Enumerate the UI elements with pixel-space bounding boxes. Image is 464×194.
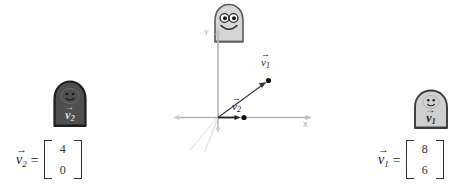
bracket-right-icon bbox=[436, 140, 444, 179]
vector-arrow-icon: → bbox=[232, 94, 241, 103]
bracket-left-icon bbox=[406, 140, 414, 179]
vector-arrow-icon: → bbox=[16, 144, 26, 155]
matrix-cell: 8 bbox=[422, 143, 428, 155]
y-axis-bottom-arrow-icon bbox=[216, 128, 221, 134]
x-axis-right-arrow-icon bbox=[306, 115, 313, 120]
figure-canvas: →v2 →v2 = 4 0 bbox=[0, 0, 464, 194]
eye-left-icon bbox=[66, 93, 69, 96]
y-axis-arrow-icon bbox=[215, 28, 221, 35]
vector-v2-arrowhead-icon bbox=[235, 115, 241, 120]
vector-arrow-icon: → bbox=[261, 50, 270, 59]
vector-arrow-icon: → bbox=[378, 144, 388, 155]
vector-v1-tip-dot bbox=[266, 78, 271, 83]
equation-v2-lhs: →v2 bbox=[16, 150, 27, 169]
eye-right-icon bbox=[433, 99, 435, 101]
equation-v2: →v2 = 4 0 bbox=[16, 140, 82, 179]
plot-label-v1: →v1 bbox=[261, 57, 270, 70]
eye-left-icon bbox=[427, 99, 429, 101]
bracket-left-icon bbox=[44, 140, 52, 179]
equation-v1-matrix: 8 6 bbox=[406, 140, 444, 179]
character-v1-body bbox=[410, 88, 452, 130]
x-axis-label: X bbox=[303, 121, 308, 128]
vector-v2-tip-dot bbox=[241, 115, 246, 120]
character-v2-body bbox=[48, 79, 92, 128]
matrix-cell: 6 bbox=[422, 164, 428, 176]
matrix-cell: 4 bbox=[60, 143, 66, 155]
equation-v1: →v1 = 8 6 bbox=[378, 140, 444, 179]
x-axis-left-arrow-icon bbox=[173, 115, 180, 120]
plot-label-v2: →v2 bbox=[232, 101, 241, 114]
y-axis-label: Y bbox=[204, 29, 209, 36]
matrix-cell: 0 bbox=[60, 164, 66, 176]
equation-v1-lhs: →v1 bbox=[378, 150, 389, 169]
equation-v2-equals: = bbox=[31, 151, 39, 169]
equation-v1-equals: = bbox=[393, 151, 401, 169]
equation-v2-matrix: 4 0 bbox=[44, 140, 82, 179]
coordinate-plot: Y X →v1 →v2 bbox=[160, 0, 320, 155]
eye-right-icon bbox=[72, 93, 75, 96]
character-v2: →v2 bbox=[48, 79, 92, 128]
bracket-right-icon bbox=[74, 140, 82, 179]
character-v1: →v1 bbox=[410, 88, 452, 130]
